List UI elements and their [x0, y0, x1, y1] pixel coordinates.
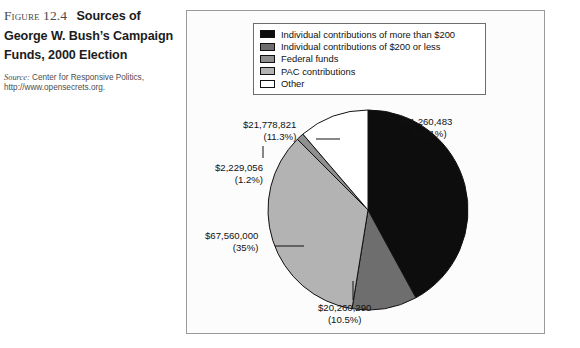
slice-amount: $67,560,000 — [205, 230, 258, 242]
chart-panel: $81,260,483(42.1%)$20,260,290(10.5%)$67,… — [186, 10, 545, 334]
slice-percent: (1.2%) — [215, 174, 263, 186]
legend-label: PAC contributions — [281, 66, 355, 77]
legend-swatch — [260, 80, 275, 88]
legend-swatch — [260, 43, 275, 51]
slice-percent: (35%) — [205, 242, 258, 254]
figure-title-line-1: Sources of — [77, 9, 141, 23]
legend-label: Federal funds — [281, 53, 338, 64]
legend-swatch — [260, 55, 275, 63]
slice-amount: $20,260,290 — [318, 302, 371, 314]
slice-percent: (42.1%) — [399, 128, 452, 140]
slice-percent: (11.3%) — [243, 131, 296, 143]
source-credit: Center for Responsive Politics, — [30, 73, 144, 82]
figure-title-line-3: Funds, 2000 Election — [4, 48, 127, 62]
legend-swatch — [260, 67, 275, 75]
pie-slice-label: $67,560,000(35%) — [205, 230, 258, 253]
pie-slice-label: $20,260,290(10.5%) — [318, 302, 371, 325]
chart-legend: Individual contributions of more than $2… — [253, 23, 486, 95]
pie-slice-label: $81,260,483(42.1%) — [399, 116, 452, 139]
legend-item: Individual contributions of more than $2… — [260, 28, 480, 40]
slice-amount: $81,260,483 — [399, 116, 452, 128]
legend-item: Federal funds — [260, 53, 480, 65]
slice-amount: $21,778,821 — [243, 119, 296, 131]
figure-source-note: Source: Center for Responsive Politics, … — [4, 73, 182, 94]
slice-amount: $2,229,056 — [215, 162, 263, 174]
pie-slice-label: $21,778,821(11.3%) — [243, 119, 296, 142]
pie-slice-label: $2,229,056(1.2%) — [215, 162, 263, 185]
figure-number-label: Figure 12.4 — [4, 8, 67, 23]
legend-label: Individual contributions of more than $2… — [281, 29, 455, 40]
legend-item: PAC contributions — [260, 65, 480, 77]
legend-swatch — [260, 30, 275, 38]
legend-label: Other — [281, 78, 304, 89]
figure-caption-block: Figure 12.4 Sources of George W. Bush’s … — [4, 8, 182, 94]
slice-percent: (10.5%) — [318, 314, 371, 326]
legend-label: Individual contributions of $200 or less — [281, 41, 440, 52]
figure-title-line-2: George W. Bush’s Campaign — [4, 29, 173, 43]
legend-item: Other — [260, 78, 480, 90]
source-url: http://www.opensecrets.org. — [4, 83, 182, 94]
source-prefix: Source: — [4, 73, 30, 82]
figure-heading: Figure 12.4 Sources of George W. Bush’s … — [4, 8, 182, 68]
legend-item: Individual contributions of $200 or less — [260, 40, 480, 52]
